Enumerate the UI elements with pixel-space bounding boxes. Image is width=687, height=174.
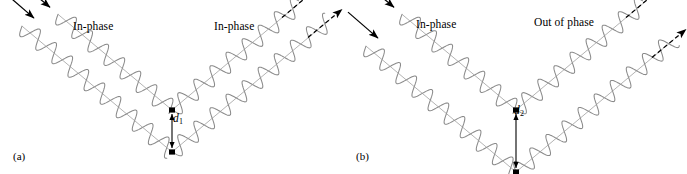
panel-b-spacing-subscript: 2 — [520, 109, 524, 118]
panel-b: In-phase Out of phase d2 (b) — [344, 0, 687, 174]
panel-b-incoming-phase-label: In-phase — [416, 18, 456, 30]
panel-a: In-phase In-phase d1 (a) — [0, 0, 344, 174]
panel-a-caption: (a) — [13, 150, 25, 162]
panel-b-spacing-arrow — [513, 114, 518, 168]
panel-b-waves — [364, 0, 680, 174]
panel-a-spacing-subscript: 1 — [179, 117, 183, 126]
panel-b-caption: (b) — [356, 150, 369, 162]
panel-a-diagram — [0, 0, 344, 174]
panel-b-outgoing-phase-label: Out of phase — [534, 16, 594, 28]
panel-a-outgoing-phase-label: In-phase — [214, 20, 254, 32]
bragg-diffraction-figure: In-phase In-phase d1 (a) In-phase Out of… — [0, 0, 687, 174]
panel-b-diagram — [344, 0, 687, 174]
panel-b-arrows — [348, 0, 686, 57]
panel-a-spacing-symbol: d — [173, 112, 179, 124]
panel-b-spacing-label: d2 — [514, 104, 524, 116]
panel-b-spacing-symbol: d — [514, 104, 520, 116]
panel-a-waves — [20, 0, 328, 158]
panel-a-spacing-label: d1 — [173, 112, 183, 124]
panel-a-incoming-phase-label: In-phase — [73, 20, 113, 32]
